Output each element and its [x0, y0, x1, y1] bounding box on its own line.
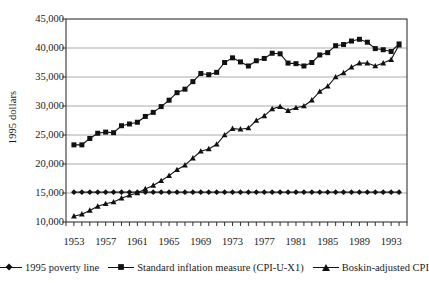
- data-point: [222, 60, 227, 65]
- x-tick-label: 1969: [190, 236, 211, 247]
- data-point: [396, 189, 402, 195]
- data-point: [214, 189, 220, 195]
- data-point: [286, 61, 291, 66]
- data-point: [365, 40, 370, 45]
- data-point: [357, 37, 362, 42]
- data-point: [206, 189, 212, 195]
- data-point: [254, 58, 259, 63]
- data-point: [349, 189, 355, 195]
- data-point: [270, 51, 275, 56]
- data-point: [349, 64, 355, 69]
- data-point: [95, 131, 100, 136]
- x-tick-label: 1993: [381, 236, 402, 247]
- data-point: [317, 189, 323, 195]
- data-point: [175, 90, 180, 95]
- data-point: [309, 60, 314, 65]
- data-point: [87, 207, 93, 212]
- data-point: [206, 146, 212, 151]
- data-point: [190, 189, 196, 195]
- data-point: [87, 136, 92, 141]
- data-point: [388, 189, 394, 195]
- data-point: [309, 189, 315, 195]
- data-point: [230, 55, 235, 60]
- data-point: [285, 189, 291, 195]
- legend-item[interactable]: 1995 poverty line: [0, 262, 99, 273]
- data-point: [87, 189, 93, 195]
- data-point: [341, 70, 347, 75]
- data-point: [143, 114, 148, 119]
- x-tick-label: 1981: [285, 236, 306, 247]
- data-point: [159, 104, 164, 109]
- data-point: [71, 189, 77, 195]
- data-point: [158, 178, 164, 183]
- data-point: [253, 189, 259, 195]
- data-point: [214, 70, 219, 75]
- x-tick-label: 1977: [254, 236, 275, 247]
- data-point: [230, 189, 236, 195]
- data-point: [166, 173, 172, 178]
- plot-frame: [66, 19, 407, 222]
- data-point: [389, 49, 394, 54]
- data-point: [325, 50, 330, 55]
- data-point: [111, 189, 117, 195]
- data-point: [325, 189, 331, 195]
- data-point: [135, 120, 140, 125]
- x-tick-label: 1973: [222, 236, 243, 247]
- data-point: [238, 59, 243, 64]
- data-point: [317, 88, 323, 93]
- legend-marker-triangle-icon: [313, 262, 339, 272]
- data-point: [222, 189, 228, 195]
- chart-legend: 1995 poverty lineStandard inflation meas…: [0, 259, 425, 275]
- legend-marker-square-icon: [108, 262, 134, 272]
- data-point: [119, 189, 125, 195]
- data-point: [182, 87, 187, 92]
- data-point: [111, 130, 116, 135]
- data-point: [333, 189, 339, 195]
- data-point: [198, 189, 204, 195]
- data-point: [150, 189, 156, 195]
- data-point: [167, 98, 172, 103]
- legend-label: Standard inflation measure (CPI-U-X1): [137, 262, 304, 273]
- data-point: [364, 189, 370, 195]
- data-point: [150, 182, 156, 187]
- data-point: [206, 72, 211, 77]
- data-point: [182, 189, 188, 195]
- data-point: [198, 71, 203, 76]
- data-point: [277, 189, 283, 195]
- data-point: [373, 46, 378, 51]
- data-point: [103, 130, 108, 135]
- data-point: [174, 189, 180, 195]
- data-point: [246, 63, 251, 68]
- data-point: [381, 47, 386, 52]
- x-tick-label: 1965: [159, 236, 180, 247]
- data-point: [190, 79, 195, 84]
- data-point: [301, 189, 307, 195]
- data-point: [151, 110, 156, 115]
- data-point: [262, 56, 267, 61]
- data-point: [103, 189, 109, 195]
- data-point: [71, 142, 76, 147]
- x-tick-label: 1989: [349, 236, 370, 247]
- x-axis-tick-labels: 1953195719611965196919731977198119851989…: [0, 236, 425, 250]
- x-tick-label: 1953: [63, 236, 84, 247]
- x-tick-label: 1985: [317, 236, 338, 247]
- data-point: [79, 142, 84, 147]
- legend-item[interactable]: Boskin-adjusted CPI: [313, 262, 429, 273]
- data-point: [269, 189, 275, 195]
- x-tick-label: 1957: [95, 236, 116, 247]
- data-point: [119, 123, 124, 128]
- data-point: [261, 189, 267, 195]
- data-point: [349, 39, 354, 44]
- legend-item[interactable]: Standard inflation measure (CPI-U-X1): [108, 262, 304, 273]
- data-point: [245, 189, 251, 195]
- data-point: [317, 52, 322, 57]
- data-point: [238, 189, 244, 195]
- data-point: [357, 189, 363, 195]
- x-tick-label: 1961: [127, 236, 148, 247]
- data-point: [174, 167, 180, 172]
- data-point: [301, 63, 306, 68]
- data-point: [341, 189, 347, 195]
- data-point: [158, 189, 164, 195]
- data-point: [278, 51, 283, 56]
